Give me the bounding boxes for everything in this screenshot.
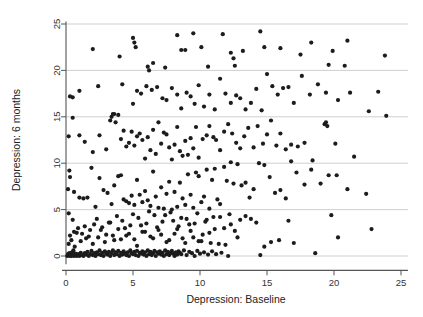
data-point [229,51,233,55]
data-point [139,223,143,227]
data-point [72,190,76,194]
data-point [205,133,209,137]
data-point [77,133,81,137]
data-point [96,235,100,239]
data-point [284,196,288,200]
data-point [146,198,150,202]
data-point [336,235,340,239]
data-point [112,183,116,187]
data-point [162,207,166,211]
data-point [103,240,107,244]
data-point [258,29,262,33]
data-point [316,82,320,86]
data-point [119,137,123,141]
data-point [118,54,122,58]
data-point [97,176,101,180]
data-point [300,74,304,78]
x-tick-label-0: 0 [63,277,68,288]
data-point [223,92,227,96]
data-point [127,232,131,236]
data-point [246,126,250,130]
data-point [336,98,340,102]
data-point [170,157,174,161]
data-point [329,213,333,217]
data-point [191,206,195,210]
data-point [107,220,111,224]
data-point [262,45,266,49]
data-point [270,84,274,88]
data-point [146,135,150,139]
data-point [109,202,113,206]
data-point [242,134,246,138]
data-point [147,209,151,213]
data-point [148,204,152,208]
data-point [77,195,81,199]
y-tick-label-0: 0 [51,253,62,258]
data-point [252,187,256,191]
data-point [172,232,176,236]
data-point [189,229,193,233]
data-point [91,242,95,246]
data-point [151,61,155,65]
data-point [71,116,75,120]
data-point [298,53,302,57]
data-point [249,101,253,105]
data-point [167,238,171,242]
data-point [180,196,184,200]
data-point [197,156,201,160]
x-tick-label-15: 15 [262,277,273,288]
data-point [71,95,75,99]
data-point [172,190,176,194]
data-point [99,228,103,232]
data-point [327,63,331,67]
data-point [151,169,155,173]
data-point [308,92,312,96]
data-point [219,251,223,255]
data-point [144,84,148,88]
data-point [182,248,186,252]
data-point [276,92,280,96]
data-point [104,147,108,151]
data-point [292,101,296,105]
data-point [213,227,217,231]
data-point [243,181,247,185]
data-point [369,227,373,231]
data-point [281,86,285,90]
data-point [151,236,155,240]
data-point [159,142,163,146]
data-point [160,220,164,224]
data-point [310,158,314,162]
data-point [189,94,193,98]
data-point [132,237,136,241]
data-point [243,107,247,111]
data-point [211,215,215,219]
data-point [199,45,203,49]
data-point [164,98,168,102]
y-tick-label-10: 10 [51,158,62,169]
data-point [218,77,222,81]
data-point [175,227,179,231]
data-point [278,188,282,192]
data-point [69,238,73,242]
data-point [278,131,282,135]
data-point [122,129,126,133]
data-point [258,253,262,257]
data-point [217,242,221,246]
data-point [115,214,119,218]
data-point [256,124,260,128]
data-point [179,252,183,256]
data-point [167,145,171,149]
data-point [207,92,211,96]
data-point [156,120,160,124]
data-point [234,93,238,97]
data-point [130,194,134,198]
data-point [292,241,296,245]
data-point [183,203,187,207]
x-axis-title: Depression: Baseline [186,293,285,305]
data-point [119,237,123,241]
data-point [215,197,219,201]
data-point [191,146,195,150]
data-point [79,239,83,243]
data-point [68,233,72,237]
data-point [154,195,158,199]
